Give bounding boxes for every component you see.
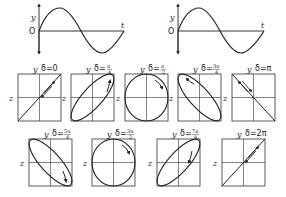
delta-label: δ=: [180, 129, 192, 138]
delta-label: δ=: [115, 129, 127, 138]
z-label: z: [147, 159, 153, 168]
z-label: z: [115, 94, 121, 103]
sine-curve: [39, 8, 124, 53]
panel-delta-pi-2: z y δ= π 2: [115, 63, 168, 121]
arrow-icon: [42, 86, 52, 97]
panel-delta-0: z y δ=0: [8, 64, 61, 121]
arrow-icon: [246, 151, 256, 162]
y-label: y: [32, 65, 38, 74]
y-label: y: [246, 65, 252, 74]
y-label: y: [139, 65, 145, 74]
origin-label: O: [168, 27, 174, 36]
arrow-icon: [239, 82, 248, 92]
sine-wave-y: y O t: [29, 5, 125, 53]
delta-label: δ=0: [41, 64, 58, 73]
panel-delta-7pi-4: z y δ= 7π 4: [147, 128, 206, 191]
delta-label: δ=: [201, 64, 213, 73]
panel-delta-3pi-2: z y δ= 3π 2: [82, 128, 135, 186]
y-label: y: [192, 65, 198, 74]
delta-denominator: 2: [129, 134, 132, 140]
arrow-icon: [155, 80, 162, 88]
delta-label: δ=: [148, 64, 160, 73]
sine-curve: [178, 8, 264, 53]
delta-label: δ=: [52, 129, 64, 138]
delta-denominator: 4: [194, 134, 197, 140]
panel-delta-pi-4: z y δ= π 4: [61, 63, 120, 126]
z-label: z: [8, 94, 14, 103]
delta-label: δ=π: [255, 64, 272, 73]
arrow-icon: [248, 147, 258, 158]
arrow-icon: [187, 79, 194, 84]
sine-wave-z: y O t: [168, 5, 265, 53]
delta-label: δ=: [94, 64, 106, 73]
arrow-icon: [44, 82, 54, 93]
origin-label: O: [29, 27, 35, 36]
z-label: z: [212, 159, 218, 168]
y-label: y: [236, 130, 242, 139]
y-label: y: [30, 13, 36, 22]
delta-denominator: 4: [215, 69, 218, 75]
delta-denominator: 4: [66, 134, 69, 140]
panel-delta-3pi-4: z y δ= 3π 4: [168, 63, 227, 126]
polarization-diagram: y O t y O t z y δ=0 z y δ= π 4: [0, 0, 286, 197]
panel-delta-2pi: z y δ=2π: [212, 129, 267, 186]
z-label: z: [168, 94, 174, 103]
z-label: z: [61, 94, 67, 103]
z-label: z: [19, 159, 25, 168]
panel-delta-5pi-4: z y δ= 5π 4: [19, 128, 78, 191]
y-label: y: [169, 13, 175, 22]
t-label: t: [121, 21, 125, 30]
y-label: y: [43, 130, 49, 139]
delta-denominator: 2: [162, 69, 165, 75]
y-label: y: [106, 130, 112, 139]
z-label: z: [222, 94, 228, 103]
arrow-icon: [63, 171, 66, 181]
t-label: t: [261, 21, 265, 30]
arrow-icon: [122, 145, 129, 153]
y-label: y: [171, 130, 177, 139]
arrow-icon: [189, 151, 192, 162]
delta-label: δ=2π: [245, 129, 267, 138]
y-label: y: [85, 65, 91, 74]
delta-denominator: 4: [108, 69, 111, 75]
z-label: z: [82, 159, 88, 168]
panel-delta-pi: z y δ=π: [222, 64, 275, 121]
